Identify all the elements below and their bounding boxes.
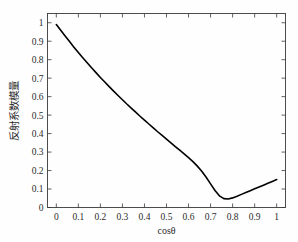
- x-tick-label: 0.4: [139, 212, 151, 222]
- x-tick-label: 0.9: [249, 212, 261, 222]
- x-tick-label: 0.1: [72, 212, 84, 222]
- x-axis-title: cosθ: [157, 225, 175, 236]
- y-tick-label: 0: [39, 203, 44, 213]
- y-tick-label: 0.2: [32, 166, 44, 176]
- x-tick-label: 0.2: [94, 212, 106, 222]
- y-axis-title: 反射系数模量: [8, 80, 20, 141]
- x-tick-label: 0.8: [227, 212, 239, 222]
- y-tick-label: 0.1: [32, 184, 44, 194]
- x-tick-label: 0: [54, 212, 59, 222]
- y-tick-label: 0.7: [32, 74, 44, 84]
- x-tick-label: 0.3: [116, 212, 128, 222]
- data-curve-reflection: [56, 25, 276, 199]
- y-tick-label: 0.9: [32, 37, 44, 47]
- axis-frame: [48, 14, 286, 208]
- x-tick-label: 0.7: [205, 212, 217, 222]
- x-tick-label: 1: [274, 212, 279, 222]
- y-tick-label: 0.5: [32, 111, 44, 121]
- y-tick-label: 0.8: [32, 55, 44, 65]
- reflection-coefficient-chart: 00.10.20.30.40.50.60.70.80.9100.10.20.30…: [0, 0, 298, 242]
- y-tick-label: 0.6: [32, 92, 44, 102]
- y-tick-label: 0.4: [32, 129, 44, 139]
- figure-container: 00.10.20.30.40.50.60.70.80.9100.10.20.30…: [0, 0, 298, 242]
- x-tick-label: 0.5: [161, 212, 173, 222]
- x-tick-label: 0.6: [183, 212, 195, 222]
- y-tick-label: 0.3: [32, 147, 44, 157]
- y-tick-label: 1: [39, 18, 44, 28]
